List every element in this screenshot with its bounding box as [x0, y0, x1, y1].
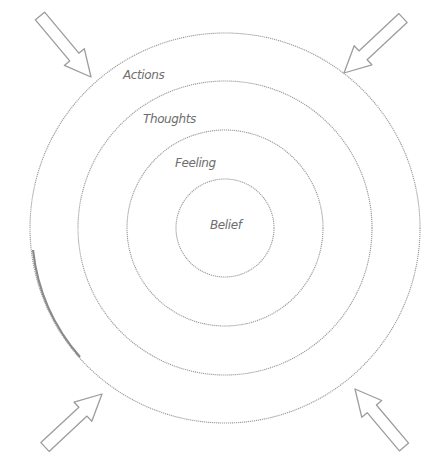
- arrow-top-left-icon: [35, 12, 91, 77]
- arrow-shape: [355, 389, 409, 451]
- label-thoughts: Thoughts: [143, 112, 196, 126]
- ring-actions-thick-edge: [33, 250, 80, 357]
- arrow-bottom-right-icon: [355, 389, 409, 451]
- label-actions: Actions: [122, 68, 164, 82]
- label-belief: Belief: [210, 218, 244, 232]
- label-feeling: Feeling: [175, 156, 217, 170]
- arrow-shape: [41, 394, 102, 451]
- concentric-belief-diagram: Actions Thoughts Feeling Belief: [0, 0, 437, 470]
- arrow-shape: [344, 14, 407, 73]
- arrow-top-right-icon: [344, 14, 407, 73]
- arrow-bottom-left-icon: [41, 394, 102, 451]
- arrow-shape: [35, 12, 91, 77]
